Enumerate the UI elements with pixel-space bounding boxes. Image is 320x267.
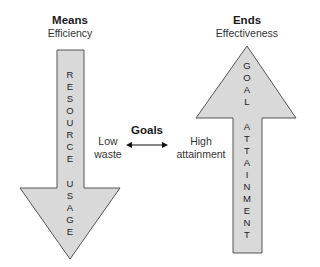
vertical-letter: O [64,105,76,117]
vertical-letter: U [64,178,76,190]
vertical-letter: T [241,229,253,241]
attainment-label: attainment [176,148,225,160]
attainment-vertical-text: ATTAINMENT [241,121,253,241]
vertical-letter: S [64,93,76,105]
means-title: Means [52,14,88,26]
efficiency-subtitle: Efficiency [48,27,93,39]
vertical-letter: A [241,157,253,169]
vertical-letter: O [241,72,253,84]
vertical-letter: R [64,69,76,81]
waste-label: waste [94,148,121,160]
goals-title: Goals [131,124,163,136]
low-label: Low [98,135,117,147]
resource-vertical-text: RESOURCE [64,69,76,165]
vertical-letter: R [64,129,76,141]
vertical-letter: N [241,181,253,193]
vertical-letter: G [64,214,76,226]
vertical-letter: T [241,133,253,145]
high-label: High [190,135,212,147]
vertical-letter: S [64,190,76,202]
goal-vertical-text: GOAL [241,60,253,108]
vertical-letter: E [64,81,76,93]
double-headed-arrow [126,142,168,148]
vertical-letter: I [241,169,253,181]
vertical-letter: T [241,145,253,157]
vertical-letter: A [241,84,253,96]
vertical-letter: E [241,205,253,217]
vertical-letter: N [241,217,253,229]
vertical-letter: G [241,60,253,72]
vertical-letter: E [64,226,76,238]
vertical-letter: L [241,96,253,108]
vertical-letter: C [64,141,76,153]
usage-vertical-text: USAGE [64,178,76,238]
vertical-letter: A [64,202,76,214]
effectiveness-subtitle: Effectiveness [216,27,278,39]
vertical-letter: M [241,193,253,205]
vertical-letter: A [241,121,253,133]
vertical-letter: E [64,153,76,165]
vertical-letter: U [64,117,76,129]
ends-title: Ends [233,14,261,26]
